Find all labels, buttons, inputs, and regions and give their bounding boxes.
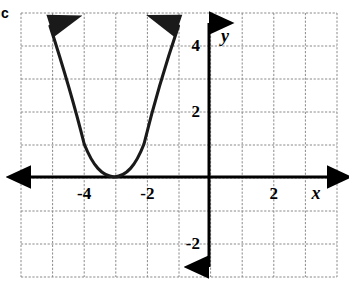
y-tick-label-pos2: 2 bbox=[192, 102, 201, 121]
y-tick-label-neg2: -2 bbox=[186, 234, 200, 253]
x-tick-label-neg2: -2 bbox=[140, 184, 154, 203]
coordinate-plane: -4 -2 2 4 2 -2 x y bbox=[0, 0, 349, 285]
x-tick-label-neg4: -4 bbox=[77, 184, 92, 203]
y-tick-label-pos4: 4 bbox=[192, 36, 201, 55]
x-axis-label: x bbox=[311, 183, 321, 203]
y-axis-label: y bbox=[219, 26, 230, 46]
x-tick-label-pos2: 2 bbox=[270, 184, 279, 203]
parabola-figure: c bbox=[0, 0, 349, 285]
